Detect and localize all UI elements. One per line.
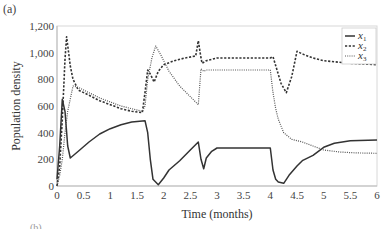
x-tick-label: 4.5 [290, 189, 304, 201]
y-axis-ticks: 02004006008001,0001,200 [29, 20, 54, 192]
legend: x1x2x3 [342, 28, 376, 64]
series-line-x1 [57, 99, 377, 184]
next-panel-label: (b) [30, 222, 42, 229]
x-axis-title: Time (months) [181, 207, 252, 221]
series-line-x3 [57, 46, 377, 186]
x-tick-label: 0 [54, 189, 60, 201]
x-tick-label: 1.5 [130, 189, 144, 201]
series-lines [57, 37, 377, 186]
y-tick-label: 400 [38, 127, 55, 139]
plot-frame [57, 26, 377, 186]
y-axis-title: Population density [9, 61, 23, 151]
x-tick-label: 4 [268, 189, 274, 201]
x-tick-label: 3.5 [237, 189, 251, 201]
y-tick-label: 800 [38, 73, 55, 85]
y-tick-label: 600 [38, 100, 55, 112]
line-chart: 02004006008001,0001,200 00.511.522.533.5… [0, 0, 389, 229]
series-line-x2 [57, 37, 377, 186]
x-tick-label: 2.5 [183, 189, 197, 201]
x-tick-label: 5 [321, 189, 327, 201]
y-tick-label: 1,000 [29, 47, 54, 59]
x-axis-ticks: 00.511.522.533.544.555.56 [54, 189, 380, 201]
y-tick-label: 200 [38, 153, 55, 165]
x-tick-label: 5.5 [343, 189, 357, 201]
x-tick-label: 6 [374, 189, 380, 201]
x-tick-label: 2 [161, 189, 167, 201]
x-tick-label: 3 [214, 189, 220, 201]
x-tick-label: 0.5 [77, 189, 91, 201]
x-tick-label: 1 [108, 189, 114, 201]
y-tick-label: 1,200 [29, 20, 54, 32]
